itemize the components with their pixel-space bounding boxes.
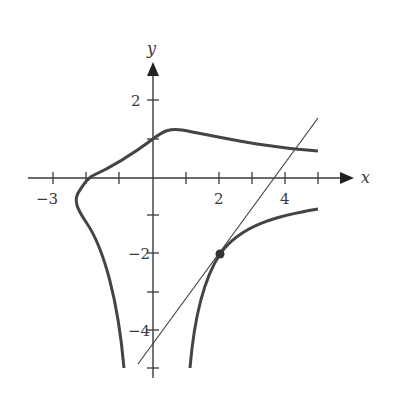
tick-label-y-2: 2: [131, 92, 141, 110]
x-axis-arrow-icon: [340, 172, 354, 184]
tick-label-x-4: 4: [280, 190, 290, 208]
y-axis-label: y: [146, 39, 157, 58]
curve-lower-right-branch: [190, 209, 318, 368]
y-axis-arrow-icon: [147, 62, 159, 76]
graph: x y −3 2 4 2 −2 −4: [0, 0, 393, 419]
tick-label-x-2: 2: [214, 190, 224, 208]
tick-label-y-neg4: −4: [128, 322, 150, 340]
x-axis-label: x: [361, 168, 370, 187]
curve-upper-left-branch: [76, 129, 318, 368]
tick-label-x-neg3: −3: [36, 190, 58, 208]
tangent-line: [138, 118, 318, 364]
tick-label-y-neg2: −2: [128, 245, 150, 263]
point-of-tangency: [216, 250, 225, 259]
